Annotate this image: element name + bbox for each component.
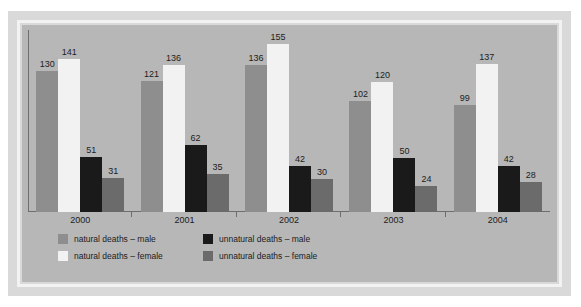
bar-slot: 42 [498, 30, 520, 212]
legend-item: unnatural deaths – male [203, 230, 348, 247]
bar-value-label: 120 [375, 70, 390, 80]
bar [141, 81, 163, 212]
bar-slot: 136 [245, 30, 267, 212]
bar [102, 178, 124, 212]
legend-swatch-icon [58, 234, 68, 244]
bar-slot: 121 [141, 30, 163, 212]
bar [311, 179, 333, 212]
bar-value-label: 136 [249, 53, 264, 63]
bar [289, 166, 311, 212]
bar-chart: 1301415131121136623513615542301021205024… [28, 30, 550, 212]
bar-group: 1021205024 [341, 30, 445, 212]
x-axis-label-2001: 2001 [132, 214, 236, 228]
chart-legend: natural deaths – maleunnatural deaths – … [58, 230, 498, 264]
bar [245, 65, 267, 212]
bar-value-label: 28 [526, 170, 536, 180]
bar-slot: 35 [207, 30, 229, 212]
legend-swatch-icon [58, 251, 68, 261]
bar-slot: 51 [80, 30, 102, 212]
bar-slot: 30 [311, 30, 333, 212]
bar-value-label: 155 [271, 32, 286, 42]
bar-slot: 120 [371, 30, 393, 212]
legend-label: unnatural deaths – male [219, 234, 310, 244]
bar [349, 101, 371, 212]
bar-slot: 42 [289, 30, 311, 212]
bar-slot: 31 [102, 30, 124, 212]
legend-label: natural deaths – female [74, 251, 163, 261]
bar-value-label: 102 [353, 89, 368, 99]
x-axis-label-2003: 2003 [341, 214, 445, 228]
bar [393, 158, 415, 212]
bar [80, 157, 102, 212]
bar-value-label: 62 [191, 133, 201, 143]
legend-item: unnatural deaths – female [203, 247, 348, 264]
bar [476, 64, 498, 212]
bar-slot: 102 [349, 30, 371, 212]
bar [454, 105, 476, 212]
bar-group: 1211366235 [132, 30, 236, 212]
bar-value-label: 136 [166, 53, 181, 63]
legend-swatch-icon [203, 251, 213, 261]
x-axis-label-2002: 2002 [237, 214, 341, 228]
bar-value-label: 35 [213, 162, 223, 172]
bar [58, 59, 80, 212]
bar [163, 65, 185, 212]
bar-value-label: 121 [144, 69, 159, 79]
legend-swatch-icon [203, 234, 213, 244]
bar-slot: 137 [476, 30, 498, 212]
bar [185, 145, 207, 212]
bar-value-label: 137 [479, 52, 494, 62]
bar-slot: 99 [454, 30, 476, 212]
bar-groups: 1301415131121136623513615542301021205024… [28, 30, 550, 212]
legend-item: natural deaths – female [58, 247, 203, 264]
x-axis-label-2004: 2004 [446, 214, 550, 228]
bar-value-label: 24 [421, 174, 431, 184]
bar-slot: 136 [163, 30, 185, 212]
legend-label: natural deaths – male [74, 234, 156, 244]
bar [36, 71, 58, 212]
bar-value-label: 141 [62, 47, 77, 57]
bar-slot: 130 [36, 30, 58, 212]
bar-value-label: 99 [460, 93, 470, 103]
bar-slot: 62 [185, 30, 207, 212]
bar [498, 166, 520, 212]
bar [267, 44, 289, 212]
legend-item: natural deaths – male [58, 230, 203, 247]
bar-group: 991374228 [446, 30, 550, 212]
bar [371, 82, 393, 212]
bar [415, 186, 437, 212]
bar-value-label: 42 [504, 154, 514, 164]
bar-slot: 50 [393, 30, 415, 212]
bar-slot: 24 [415, 30, 437, 212]
bar-value-label: 50 [399, 146, 409, 156]
bar-value-label: 51 [86, 145, 96, 155]
bar [520, 182, 542, 212]
x-axis-labels: 20002001200220032004 [28, 214, 550, 228]
bar-slot: 141 [58, 30, 80, 212]
bar-value-label: 30 [317, 167, 327, 177]
legend-label: unnatural deaths – female [219, 251, 317, 261]
bar-group: 1361554230 [237, 30, 341, 212]
bar-value-label: 31 [108, 166, 118, 176]
bar-value-label: 42 [295, 154, 305, 164]
bar-value-label: 130 [40, 59, 55, 69]
x-axis-label-2000: 2000 [28, 214, 132, 228]
figure: 1301415131121136623513615542301021205024… [0, 0, 581, 307]
bar-group: 1301415131 [28, 30, 132, 212]
bar [207, 174, 229, 212]
bar-slot: 155 [267, 30, 289, 212]
bar-slot: 28 [520, 30, 542, 212]
